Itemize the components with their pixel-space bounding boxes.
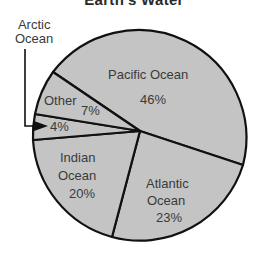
label-atlantic-line1: Atlantic <box>146 176 189 191</box>
label-other-pct: 7% <box>81 103 100 118</box>
label-pacific-name: Pacific Ocean <box>108 67 188 82</box>
label-pacific-pct: 46% <box>140 92 166 107</box>
label-atlantic-line2: Ocean <box>147 193 185 208</box>
label-atlantic-pct: 23% <box>156 210 182 225</box>
label-arctic-external: Arctic Ocean <box>15 18 53 46</box>
label-indian-line2: Ocean <box>58 168 96 183</box>
label-arctic-pct: 4% <box>50 119 69 134</box>
label-indian-pct: 20% <box>69 186 95 201</box>
label-indian-line1: Indian <box>60 150 95 165</box>
label-arctic-line2: Ocean <box>15 32 53 46</box>
label-other-name: Other <box>44 93 77 108</box>
label-arctic-line1: Arctic <box>15 18 53 32</box>
